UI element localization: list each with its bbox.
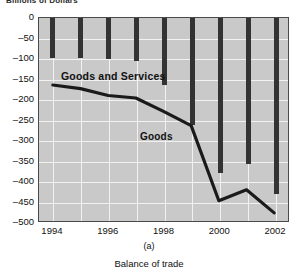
y-axis-tick-label: –350 [0,155,34,166]
y-axis-tick-label: –500 [0,216,34,227]
balance-of-trade-figure: Billions of Dollars 0–50–100–150–200–250… [0,0,298,276]
y-axis-tick-label: –50 [0,32,34,43]
y-axis-tick-label: –450 [0,196,34,207]
y-axis-tick-label: –150 [0,73,34,84]
x-axis-tick-label: 1994 [41,225,62,236]
y-axis-tick-labels: 0–50–100–150–200–250–300–350–400–450–500 [0,0,34,276]
y-axis-tick-label: –100 [0,52,34,63]
y-axis-tick-label: 0 [0,11,34,22]
series-label-goods: Goods [140,131,173,142]
x-axis-tick-label: 1998 [153,225,174,236]
panel-caption: (a) [0,241,298,251]
x-axis-tick-label: 2000 [209,225,230,236]
series-label-goods-and-services: Goods and Services [61,70,166,82]
x-axis-tick-labels: 19941996199820002002 [38,225,289,239]
y-axis-tick-label: –250 [0,114,34,125]
y-axis-tick-label: –200 [0,93,34,104]
x-axis-tick-label: 2002 [264,225,285,236]
x-axis-tick-label: 1996 [97,225,118,236]
figure-caption: Balance of trade [0,258,298,269]
y-axis-tick-label: –300 [0,134,34,145]
line-series-goods [39,18,288,221]
plot-area: Goods and Services Goods [38,17,289,222]
y-axis-tick-label: –400 [0,175,34,186]
